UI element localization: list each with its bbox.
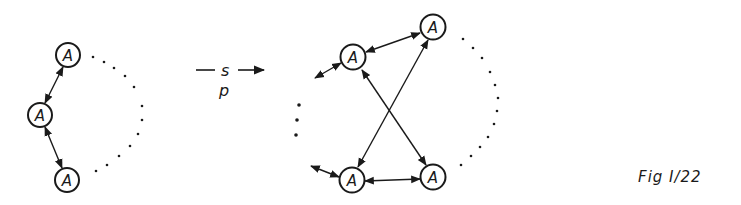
node-R4: A [421, 165, 446, 190]
transform-arrow: s p [196, 61, 264, 100]
edge-R1-outside [315, 63, 341, 78]
node-label: A [346, 172, 357, 190]
edge-R1-R4 [362, 70, 426, 165]
right-graph: A A A A [294, 15, 499, 193]
node-R2: A [421, 15, 446, 40]
edge-L1-L2 [45, 67, 63, 103]
node-L2: A [28, 103, 52, 127]
node-label: A [347, 49, 358, 67]
edge-L2-L3 [45, 127, 62, 168]
edge-R2-R3 [358, 40, 428, 167]
left-dotted-arc [92, 56, 144, 173]
left-graph: A A A [28, 43, 143, 192]
node-R1: A [341, 45, 366, 70]
node-L3: A [55, 168, 79, 192]
node-label: A [62, 47, 73, 65]
node-label: A [427, 19, 438, 37]
node-label: A [34, 107, 45, 125]
vertical-dots [294, 103, 301, 137]
diagram-canvas: A A A s p [0, 0, 741, 205]
figure-caption: Fig I/22 [638, 168, 702, 186]
node-R3: A [340, 168, 365, 193]
node-label: A [427, 169, 438, 187]
node-L1: A [56, 43, 80, 67]
edge-R1-R2 [366, 33, 420, 52]
transform-label-s: s [221, 61, 229, 80]
edge-R3-R4 [365, 179, 420, 181]
transform-label-p: p [218, 81, 229, 100]
edge-R3-outside [311, 166, 339, 177]
node-label: A [61, 172, 72, 190]
right-dotted-arc [460, 38, 500, 167]
